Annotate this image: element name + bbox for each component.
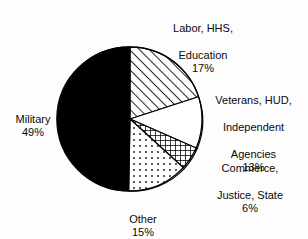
- pie-slice-military[interactable]: [57, 47, 130, 191]
- pie-label-labor-percent: 17%: [148, 62, 258, 76]
- pie-label-commerce-line1: Commerce,: [222, 162, 279, 174]
- pie-label-labor-line1: Labor, HHS,: [173, 22, 233, 34]
- pie-label-military-percent: 49%: [2, 126, 64, 140]
- pie-label-labor-hhs-education: Labor, HHS, Education 17%: [148, 8, 258, 89]
- pie-label-other-percent: 15%: [112, 226, 174, 239]
- pie-label-military-line1: Military: [16, 113, 51, 125]
- pie-label-veterans-line2: Independent: [223, 121, 284, 133]
- pie-label-other-line1: Other: [129, 213, 157, 225]
- pie-label-veterans-line1: Veterans, HUD,: [215, 94, 291, 106]
- pie-label-commerce-justice-state: Commerce, Justice, State 6%: [196, 148, 304, 229]
- pie-label-other: Other 15%: [112, 199, 174, 239]
- pie-label-military: Military 49%: [2, 99, 64, 153]
- pie-label-labor-line2: Education: [179, 49, 228, 61]
- pie-label-commerce-line2: Justice, State: [217, 189, 283, 201]
- pie-label-commerce-percent: 6%: [196, 202, 304, 216]
- pie-chart-figure: Labor, HHS, Education 17% Veterans, HUD,…: [0, 0, 308, 239]
